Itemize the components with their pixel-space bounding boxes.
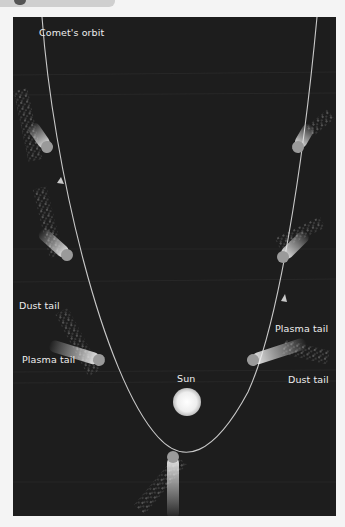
background-lines: [13, 72, 336, 482]
comet-icon-mid-right: [275, 217, 326, 266]
comet-icon-lower-left: [48, 308, 107, 376]
dust-tail-label-right: Dust tail: [288, 374, 329, 385]
plasma-tail-label-right: Plasma tail: [275, 323, 328, 334]
comet-icon-perihelion: [134, 451, 187, 516]
orbit-label: Comet's orbit: [39, 27, 104, 38]
orbit-arrow-icon-right: [281, 294, 287, 302]
comet-icon-lower-right: [245, 337, 330, 368]
orbit-arrow-icon-left: [57, 177, 64, 184]
sun-icon: [173, 388, 201, 416]
dust-tail-label-left: Dust tail: [19, 300, 60, 311]
top-tab-decoration: [0, 0, 115, 7]
sun-label: Sun: [177, 373, 195, 384]
orbit-path: [42, 17, 317, 452]
comet-orbit-diagram: Comet's orbit Dust tail Plasma tail Sun …: [13, 17, 336, 516]
plasma-tail-label-left: Plasma tail: [22, 354, 75, 365]
diagram-canvas: [13, 17, 336, 516]
comet-icon-upper-left: [14, 88, 56, 161]
comet-icon-upper-right: [290, 109, 335, 155]
